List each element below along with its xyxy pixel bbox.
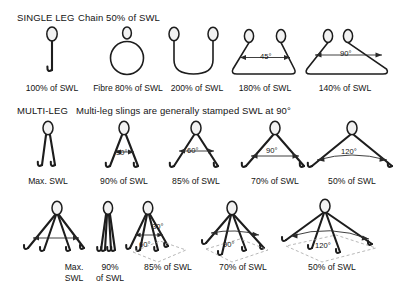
angle-label-four-leg-60: 60° bbox=[139, 240, 150, 249]
shape-four-leg-spread bbox=[24, 201, 84, 251]
caption-four-leg-vertical-line2: of SWL bbox=[88, 273, 132, 284]
angle-label-four-leg-120: 120° bbox=[315, 241, 331, 250]
row-four-leg-graphics bbox=[0, 0, 408, 296]
angle-label-four-leg-90: 90° bbox=[223, 240, 234, 249]
caption-four-leg-90: 70% of SWL bbox=[205, 262, 281, 273]
angle-label-four-leg-30: 30° bbox=[152, 222, 163, 231]
caption-four-leg-120: 50% of SWL bbox=[294, 262, 370, 273]
shape-four-leg-vertical bbox=[97, 202, 115, 251]
sling-swl-diagram: SINGLE LEG Chain 50% of SWL MULTI-LEG Mu… bbox=[0, 0, 408, 296]
shape-four-leg-90 bbox=[202, 201, 268, 262]
caption-four-leg-vertical-line1: 90% bbox=[88, 262, 132, 273]
shape-four-leg-120 bbox=[282, 199, 376, 262]
shape-four-leg-60 bbox=[126, 201, 186, 262]
caption-four-leg-60: 85% of SWL bbox=[130, 262, 206, 273]
